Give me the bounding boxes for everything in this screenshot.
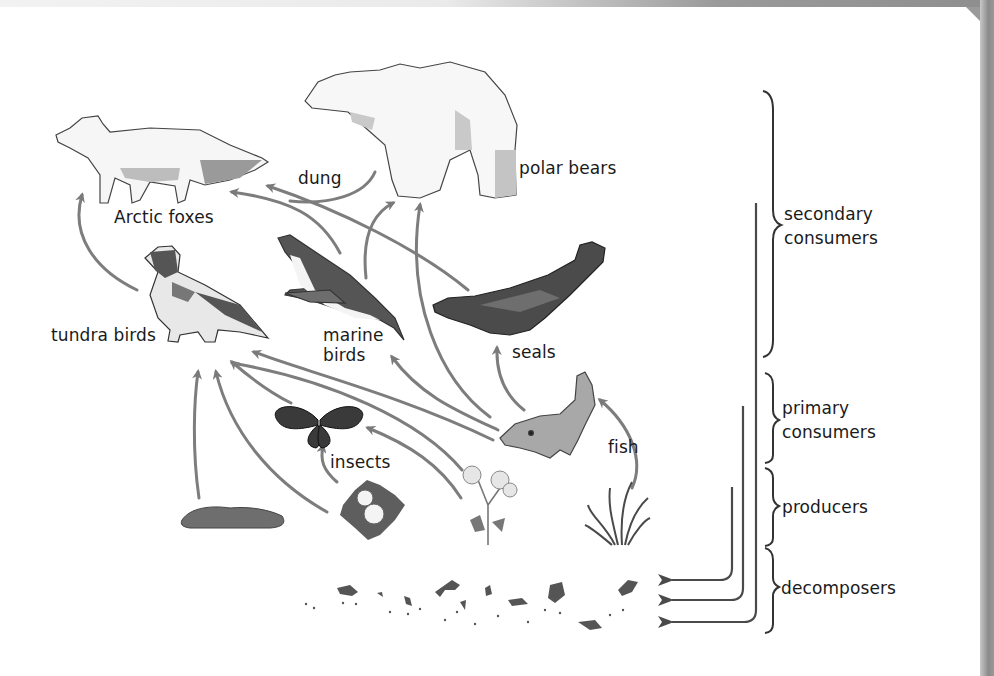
brace-primary bbox=[765, 373, 779, 463]
white-flower-illustration bbox=[340, 480, 405, 540]
label-fish: fish bbox=[608, 437, 639, 457]
poppy-illustration bbox=[463, 466, 517, 545]
label-secondary-line1: secondary bbox=[784, 203, 873, 225]
brace-secondary bbox=[763, 91, 781, 357]
arrow-marine-to-bear bbox=[365, 203, 393, 278]
brace-producers bbox=[765, 468, 779, 546]
trophic-braces bbox=[763, 91, 781, 633]
label-tundra-birds: tundra birds bbox=[51, 325, 156, 345]
label-decomposers: decomposers bbox=[781, 577, 896, 599]
moss-illustration bbox=[181, 507, 284, 528]
seal-illustration bbox=[433, 242, 605, 335]
label-arctic-foxes: Arctic foxes bbox=[114, 207, 214, 227]
butterfly-illustration bbox=[275, 407, 363, 448]
label-polar-bears: polar bears bbox=[519, 158, 616, 178]
arctic-fox-illustration bbox=[56, 116, 268, 203]
label-marine-birds-line1: marine bbox=[323, 325, 384, 345]
label-marine-birds-line2: birds bbox=[323, 345, 365, 365]
label-producers: producers bbox=[782, 496, 868, 518]
label-dung: dung bbox=[298, 168, 342, 188]
label-primary-line2: consumers bbox=[782, 421, 876, 443]
brace-decomposers bbox=[765, 548, 779, 633]
tundra-bird-illustration bbox=[145, 246, 268, 342]
label-primary-line1: primary bbox=[782, 397, 849, 419]
grass-illustration bbox=[585, 482, 650, 545]
fish-illustration bbox=[500, 372, 595, 458]
decomposer-particles bbox=[305, 580, 638, 630]
arrow-moss-to-tundra bbox=[194, 372, 199, 498]
label-insects: insects bbox=[330, 452, 390, 472]
label-seals: seals bbox=[512, 342, 556, 362]
label-secondary-line2: consumers bbox=[784, 227, 878, 249]
return-arrow-producers bbox=[672, 487, 732, 580]
decomposer-arrows bbox=[672, 203, 756, 622]
